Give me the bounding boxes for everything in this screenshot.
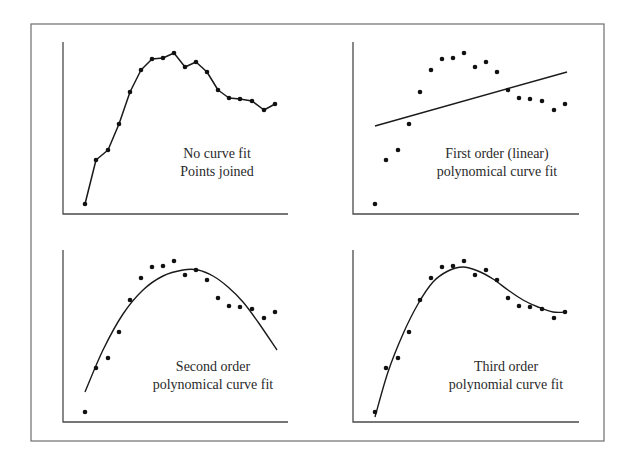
panel-caption-line1: Second order [176, 359, 251, 374]
axes [353, 42, 579, 214]
data-point [396, 356, 401, 361]
data-point [407, 330, 412, 335]
plot-area [83, 51, 278, 207]
data-point [183, 65, 188, 70]
data-point [94, 366, 99, 371]
panel-caption-line2: polynomial curve fit [449, 377, 563, 392]
data-point [250, 307, 255, 312]
data-point [117, 330, 122, 335]
data-point [183, 273, 188, 278]
data-point [205, 70, 210, 75]
panel-caption-line2: Points joined [180, 164, 254, 179]
data-point [373, 202, 378, 207]
data-point [106, 356, 111, 361]
data-point [552, 108, 557, 113]
data-point [194, 60, 199, 65]
data-point [94, 158, 99, 163]
data-point [128, 90, 133, 95]
data-point [373, 410, 378, 415]
panel-caption-line2: polynomical curve fit [153, 377, 274, 392]
data-point [407, 122, 412, 127]
panel-caption-line1: First order (linear) [445, 146, 549, 162]
data-point [117, 122, 122, 127]
data-point [495, 70, 500, 75]
data-point [150, 57, 155, 62]
data-point [528, 305, 533, 310]
data-point [139, 68, 144, 73]
data-point [495, 278, 500, 283]
axes [63, 42, 288, 214]
data-point [172, 259, 177, 264]
data-point [161, 264, 166, 269]
cubic-fit-curve [375, 267, 567, 417]
data-point [451, 264, 456, 269]
data-point [106, 148, 111, 153]
data-point [238, 305, 243, 310]
data-point [83, 410, 88, 415]
data-point [128, 298, 133, 303]
data-point [473, 273, 478, 278]
data-point [517, 96, 522, 101]
data-point [205, 278, 210, 283]
plot-area [373, 51, 568, 207]
data-point [517, 304, 522, 309]
data-point [150, 265, 155, 270]
data-point [563, 102, 568, 107]
data-point [528, 97, 533, 102]
data-point [396, 148, 401, 153]
data-point [273, 310, 278, 315]
joined-line [85, 53, 275, 204]
axes [63, 250, 288, 422]
data-point [262, 108, 267, 113]
panel-third-order-fit: Third order polynomial curve fit [353, 250, 579, 422]
data-point [462, 259, 467, 264]
data-point [418, 90, 423, 95]
data-point [238, 97, 243, 102]
data-point [540, 307, 545, 312]
data-point [273, 102, 278, 107]
data-point [440, 265, 445, 270]
data-point [484, 60, 489, 65]
data-point [161, 56, 166, 61]
data-point [563, 310, 568, 315]
data-point [462, 51, 467, 56]
data-point [506, 88, 511, 93]
data-point [384, 366, 389, 371]
data-point [262, 316, 267, 321]
data-point [418, 298, 423, 303]
data-point [227, 304, 232, 309]
panel-no-curve-fit: No curve fit Points joined [63, 42, 288, 214]
data-point [429, 68, 434, 73]
data-point [83, 202, 88, 207]
data-point [194, 268, 199, 273]
curve-fit-comparison-figure: No curve fit Points joined First order (… [0, 0, 634, 463]
data-point [227, 96, 232, 101]
panel-caption-line1: Third order [474, 359, 538, 374]
panel-linear-fit: First order (linear) polynomical curve f… [353, 42, 579, 214]
data-point [250, 99, 255, 104]
data-point [451, 56, 456, 61]
data-point [473, 65, 478, 70]
data-point [506, 296, 511, 301]
panel-second-order-fit: Second order polynomical curve fit [63, 250, 288, 422]
panel-caption-line2: polynomical curve fit [437, 164, 558, 179]
data-point [429, 276, 434, 281]
plot-area [373, 259, 568, 417]
linear-fit-line [375, 72, 567, 126]
data-point [172, 51, 177, 56]
panel-caption-line1: No curve fit [183, 146, 251, 161]
data-point [540, 99, 545, 104]
data-point [216, 88, 221, 93]
data-point [484, 268, 489, 273]
data-point [139, 276, 144, 281]
data-point [216, 296, 221, 301]
data-point [384, 158, 389, 163]
data-point [552, 316, 557, 321]
axes [353, 250, 579, 422]
data-point [440, 57, 445, 62]
